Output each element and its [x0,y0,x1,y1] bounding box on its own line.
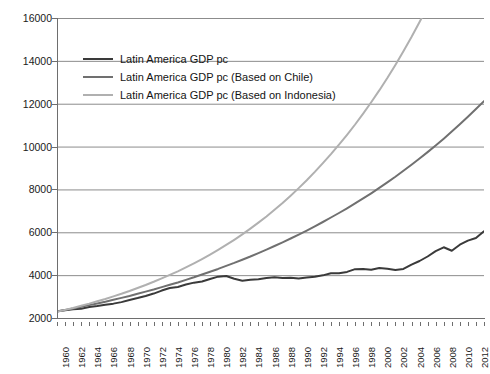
y-axis-tick-label: 12000 [6,99,52,109]
x-axis-tick-label: 1980 [222,347,231,368]
y-axis-tick-label: 16000 [6,13,52,23]
x-axis-tick-mark [234,322,235,326]
x-axis-tick-mark [403,322,404,326]
x-axis-tick-mark [275,322,276,326]
x-axis-tick-mark [339,322,340,326]
x-axis-tick-label: 1970 [142,347,151,368]
x-axis-tick-mark [395,322,396,326]
x-axis-tick-label: 1962 [77,347,86,368]
x-axis-tick-mark [57,322,58,326]
x-axis-tick-mark [428,322,429,326]
y-axis-tick-label: 4000 [6,270,52,280]
x-axis-tick-mark [460,322,461,326]
x-axis-tick-mark [81,322,82,326]
legend-item-label: Latin America GDP pc (Based on Chile) [120,71,313,83]
x-axis-tick-label: 1982 [238,347,247,368]
x-axis-tick-label: 2008 [448,347,457,368]
x-axis-tick-mark [258,322,259,326]
x-axis-tick-mark [122,322,123,326]
x-axis-tick-mark [283,322,284,326]
x-axis-tick-mark [299,322,300,326]
x-axis-tick-label: 1974 [174,347,183,368]
x-axis-tick-label: 1976 [190,347,199,368]
x-axis-tick-label: 1968 [126,347,135,368]
x-axis-tick-mark [130,322,131,326]
x-axis-tick-mark [363,322,364,326]
legend-swatch-icon [83,94,113,96]
x-axis-tick-mark [315,322,316,326]
x-axis-tick-mark [97,322,98,326]
x-axis-tick-mark [307,322,308,326]
x-axis-tick-mark [291,322,292,326]
x-axis-tick-mark [331,322,332,326]
x-axis-tick-mark [412,322,413,326]
legend-swatch-icon [83,58,113,60]
x-axis-tick-label: 2004 [416,347,425,368]
x-axis-tick-mark [113,322,114,326]
x-axis-tick-mark [444,322,445,326]
x-axis-tick-label: 2000 [383,347,392,368]
x-axis-tick-mark [65,322,66,326]
x-axis-tick-label: 1994 [335,347,344,368]
x-axis-tick-mark [194,322,195,326]
x-axis-tick-mark [186,322,187,326]
x-axis-tick-label: 1960 [61,347,70,368]
legend-item: Latin America GDP pc (Based on Indonesia… [83,86,336,104]
x-axis-tick-mark [347,322,348,326]
x-axis-tick-mark [436,322,437,326]
x-axis-tick-mark [420,322,421,326]
x-axis-tick-label: 1966 [109,347,118,368]
x-axis-tick-label: 1972 [158,347,167,368]
legend-item-label: Latin America GDP pc (Based on Indonesia… [120,89,336,101]
x-axis-tick-mark [250,322,251,326]
chart-legend: Latin America GDP pc Latin America GDP p… [83,50,336,104]
x-axis-tick-label: 2002 [399,347,408,368]
legend-swatch-icon [83,76,113,78]
x-axis-tick-label: 2012 [480,347,489,368]
y-axis-line [57,18,58,319]
x-axis-tick-mark [242,322,243,326]
y-axis: 200040006000800010000120001400016000 [0,0,52,374]
x-axis-tick-mark [452,322,453,326]
x-axis-tick-mark [371,322,372,326]
x-axis-tick-mark [323,322,324,326]
x-axis-tick-mark [476,322,477,326]
x-axis-tick-mark [218,322,219,326]
x-axis-tick-mark [178,322,179,326]
x-axis-tick-label: 1992 [319,347,328,368]
x-axis-tick-label: 1964 [93,347,102,368]
x-axis-tick-label: 1986 [271,347,280,368]
y-axis-tick-label: 8000 [6,184,52,194]
x-axis-tick-mark [484,322,485,326]
legend-item: Latin America GDP pc (Based on Chile) [83,68,336,86]
legend-item: Latin America GDP pc [83,50,336,68]
legend-item-label: Latin America GDP pc [120,53,228,65]
x-axis-tick-label: 2010 [464,347,473,368]
x-axis-tick-mark [387,322,388,326]
y-axis-tick-label: 10000 [6,142,52,152]
x-axis-tick-mark [73,322,74,326]
x-axis-tick-mark [105,322,106,326]
x-axis-tick-mark [267,322,268,326]
x-axis-tick-label: 1984 [254,347,263,368]
x-axis-tick-mark [162,322,163,326]
x-axis-tick-label: 1990 [303,347,312,368]
y-axis-tick-label: 14000 [6,56,52,66]
x-axis-tick-mark [170,322,171,326]
x-axis-line [57,318,485,319]
x-axis-tick-mark [468,322,469,326]
x-axis-tick-mark [146,322,147,326]
x-axis-tick-label: 1998 [367,347,376,368]
x-axis: 1960196219641966196819701972197419761978… [0,322,490,374]
x-axis-tick-label: 1988 [287,347,296,368]
x-axis-tick-mark [202,322,203,326]
x-axis-tick-mark [210,322,211,326]
x-axis-tick-label: 2006 [432,347,441,368]
line-chart: 200040006000800010000120001400016000 196… [0,0,490,374]
x-axis-tick-label: 1996 [351,347,360,368]
x-axis-tick-label: 1978 [206,347,215,368]
y-axis-tick-label: 6000 [6,227,52,237]
x-axis-tick-mark [89,322,90,326]
x-axis-tick-mark [154,322,155,326]
x-axis-tick-mark [138,322,139,326]
